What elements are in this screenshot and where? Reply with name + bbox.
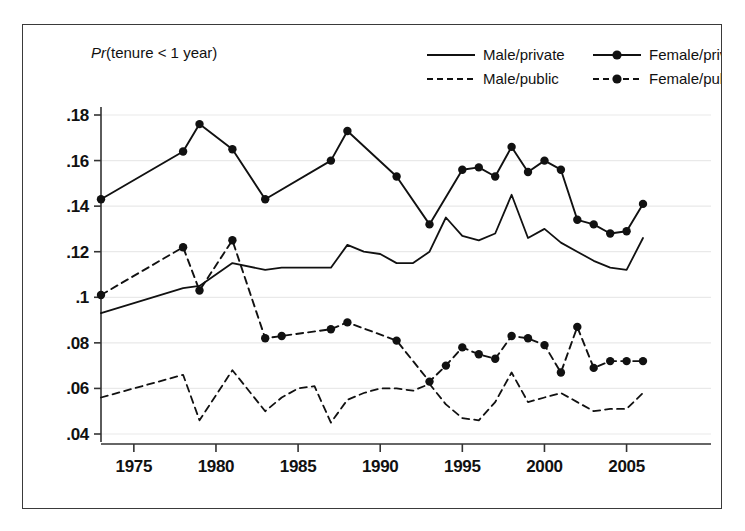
y-tick-label: .1: [75, 288, 89, 307]
data-point: [557, 166, 565, 174]
data-point: [179, 243, 187, 251]
data-point: [622, 357, 630, 365]
data-point: [343, 318, 351, 326]
data-point: [639, 357, 647, 365]
series-line: [101, 370, 643, 422]
x-tick-label: 2000: [526, 457, 563, 476]
annotation: Pr(tenure < 1 year): [91, 44, 217, 61]
data-point: [261, 334, 269, 342]
legend-label: Female/private: [649, 46, 721, 63]
data-point: [442, 361, 450, 369]
y-tick-label: .14: [66, 197, 90, 216]
figure-root: .04.06.08.1.12.14.16.1819751980198519901…: [0, 0, 745, 531]
data-point: [475, 350, 483, 358]
x-tick-label: 1980: [198, 457, 235, 476]
series-female-private: [97, 120, 647, 238]
y-tick-label: .18: [66, 106, 89, 125]
data-point: [195, 286, 203, 294]
data-point: [639, 200, 647, 208]
data-point: [491, 172, 499, 180]
data-point: [557, 368, 565, 376]
data-point: [327, 325, 335, 333]
data-point: [195, 120, 203, 128]
data-point: [228, 236, 236, 244]
data-point: [425, 377, 433, 385]
y-tick-label: .08: [66, 334, 89, 353]
data-point: [228, 145, 236, 153]
series-male-private: [101, 195, 643, 313]
annotation-rest: (tenure < 1 year): [106, 44, 217, 61]
series-male-public: [101, 370, 643, 422]
data-point: [261, 195, 269, 203]
data-point: [524, 168, 532, 176]
data-point: [622, 227, 630, 235]
legend-marker: [612, 74, 621, 83]
y-axis: .04.06.08.1.12.14.16.18: [66, 106, 101, 444]
data-point: [606, 229, 614, 237]
data-point: [507, 143, 515, 151]
data-point: [97, 195, 105, 203]
y-tick-label: .06: [66, 379, 89, 398]
series-line: [101, 240, 643, 381]
legend-label: Male/public: [483, 70, 559, 87]
data-point: [491, 355, 499, 363]
y-tick-label: .16: [66, 152, 89, 171]
data-point: [573, 323, 581, 331]
data-point: [97, 291, 105, 299]
data-point: [606, 357, 614, 365]
data-point: [507, 332, 515, 340]
data-point: [573, 216, 581, 224]
chart-frame: .04.06.08.1.12.14.16.1819751980198519901…: [22, 24, 722, 509]
legend-label: Male/private: [483, 46, 565, 63]
series-female-public: [97, 236, 647, 386]
data-point: [392, 172, 400, 180]
legend-item: Female/public: [593, 70, 721, 87]
x-tick-label: 1975: [116, 457, 153, 476]
data-point: [458, 166, 466, 174]
data-point: [343, 127, 351, 135]
legend-item: Male/public: [427, 70, 559, 87]
x-tick-label: 1985: [280, 457, 317, 476]
data-point: [540, 156, 548, 164]
data-point: [278, 332, 286, 340]
y-tick-label: .12: [66, 243, 89, 262]
x-tick-label: 1995: [444, 457, 481, 476]
x-axis: 1975198019851990199520002005: [101, 444, 711, 476]
data-point: [425, 220, 433, 228]
x-tick-label: 2005: [608, 457, 645, 476]
annotation-pr: Pr: [91, 44, 107, 61]
chart-canvas: .04.06.08.1.12.14.16.1819751980198519901…: [23, 25, 721, 508]
data-point: [524, 334, 532, 342]
data-point: [458, 343, 466, 351]
series-line: [101, 124, 643, 233]
legend: Male/privateFemale/privateMale/publicFem…: [427, 46, 721, 87]
legend-marker: [612, 50, 621, 59]
data-point: [590, 220, 598, 228]
legend-label: Female/public: [649, 70, 721, 87]
data-point: [590, 364, 598, 372]
series-line: [101, 195, 643, 313]
legend-item: Male/private: [427, 46, 565, 63]
data-point: [540, 341, 548, 349]
data-point: [392, 336, 400, 344]
data-point: [179, 147, 187, 155]
data-point: [327, 156, 335, 164]
data-point: [475, 163, 483, 171]
legend-item: Female/private: [593, 46, 721, 63]
annotation-text: Pr(tenure < 1 year): [91, 44, 217, 61]
x-tick-label: 1990: [362, 457, 399, 476]
y-tick-label: .04: [66, 425, 90, 444]
